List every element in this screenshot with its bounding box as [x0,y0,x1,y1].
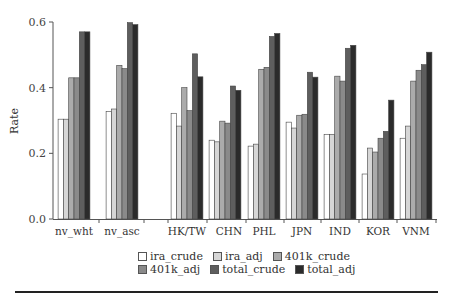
bar-ira-adj [111,109,116,219]
legend-label: ira_adj [225,250,263,263]
bars [58,23,432,219]
bar-ira-adj [367,148,372,219]
x-tick-label: IND [329,225,351,237]
bar-ira-adj [214,142,219,219]
legend-label: total_crude [222,263,285,276]
bar-401k-crude [373,152,378,219]
bar-total-adj [427,52,432,219]
bar-ira-adj [63,119,68,219]
bar-ira-crude [248,146,253,219]
legend-label: 401k_adj [150,263,200,276]
x-tick-label: nv_asc [104,225,140,238]
bar-total-adj [85,32,90,219]
bar-ira-crude [171,113,176,219]
x-tick-label: PHL [252,225,275,237]
bar-total-adj [351,45,356,219]
bar-401k-adj [302,114,307,219]
legend-item-ira-adj: ira_adj [213,250,263,263]
legend-item-401k-crude: 401k_crude [273,250,350,263]
legend-swatch-total-crude [210,265,219,274]
bar-total-adj [313,77,318,219]
bar-total-crude [307,72,312,219]
bar-ira-crude [58,119,63,219]
bar-401k-crude [117,65,122,219]
bar-401k-adj [74,78,79,219]
legend-swatch-401k-adj [138,265,147,274]
legend-item-401k-adj: 401k_adj [138,263,200,276]
legend-row-1: ira_crude ira_adj 401k_crude [138,250,365,263]
bar-total-crude [345,48,350,219]
bar-total-crude [127,23,132,219]
bar-401k-crude [335,76,340,219]
bar-total-crude [421,65,426,219]
bar-401k-crude [69,78,74,219]
y-tick-label: 0.6 [29,16,47,29]
legend-label: total_adj [307,263,355,276]
y-tick-label: 0.2 [29,147,47,160]
bar-401k-adj [187,111,192,219]
bar-total-adj [236,90,241,219]
x-tick-label: JPN [291,225,312,237]
bar-401k-crude [259,69,264,219]
bar-ira-adj [176,126,181,219]
x-tick-label: VNM [401,225,430,237]
bar-total-adj [198,77,203,219]
legend-item-total-crude: total_crude [210,263,285,276]
bar-401k-crude [297,115,302,219]
bar-401k-adj [264,67,269,219]
bar-401k-adj [122,69,127,219]
bar-ira-crude [362,174,367,219]
bar-401k-adj [340,81,345,219]
bar-401k-adj [225,123,230,219]
bar-ira-adj [405,126,410,219]
bar-ira-crude [106,111,111,219]
x-tick-label: CHN [216,225,242,237]
bar-chart: 0.00.20.40.6 nv_whtnv_ascHK/TWCHNPHLJPNI… [0,0,452,245]
legend-row-2: 401k_adj total_crude total_adj [138,263,365,276]
bar-ira-adj [291,128,296,219]
legend: ira_crude ira_adj 401k_crude 401k_adj to… [138,250,365,276]
bar-ira-crude [324,134,329,219]
bar-401k-crude [182,88,187,219]
y-tick-label: 0.4 [29,82,47,95]
legend-swatch-401k-crude [273,252,282,261]
bar-401k-crude [220,121,225,219]
legend-swatch-ira-adj [213,252,222,261]
x-tick-label: HK/TW [168,225,207,237]
bar-ira-crude [400,138,405,219]
bar-ira-adj [329,134,334,219]
x-tick-label: KOR [366,225,391,237]
bar-ira-crude [209,140,214,219]
x-axis: nv_whtnv_ascHK/TWCHNPHLJPNINDKORVNM [53,219,437,238]
bar-total-crude [79,32,84,219]
y-tick-label: 0.0 [29,213,47,226]
bar-401k-crude [411,81,416,219]
legend-label: ira_crude [150,250,203,263]
bar-total-crude [383,131,388,219]
y-axis-label: Rate [8,108,21,134]
legend-swatch-ira-crude [138,252,147,261]
legend-item-total-adj: total_adj [295,263,355,276]
bar-ira-crude [286,122,291,219]
horizontal-rule [15,291,438,293]
legend-item-ira-crude: ira_crude [138,250,203,263]
x-tick-label: nv_wht [55,225,94,238]
bar-ira-adj [253,144,258,219]
bar-total-adj [389,100,394,219]
bar-total-crude [269,36,274,219]
bar-401k-adj [416,70,421,219]
legend-label: 401k_crude [285,250,350,263]
legend-swatch-total-adj [295,265,304,274]
bar-401k-adj [378,138,383,219]
bar-total-crude [192,54,197,219]
y-axis: 0.00.20.40.6 [29,16,54,226]
bar-total-adj [275,33,280,219]
bar-total-adj [133,25,138,219]
bar-total-crude [230,86,235,219]
